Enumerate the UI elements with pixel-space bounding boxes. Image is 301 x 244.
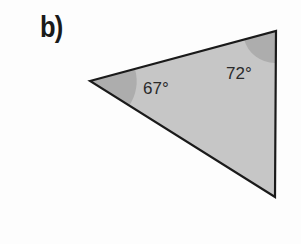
angle-label-67: 67°	[143, 79, 169, 98]
triangle-diagram: 67° 72°	[0, 0, 301, 244]
angle-label-72: 72°	[226, 64, 252, 83]
